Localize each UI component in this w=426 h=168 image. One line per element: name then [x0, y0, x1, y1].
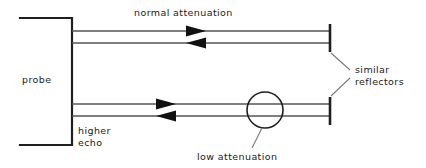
- upper-beam-arrow-left: [186, 38, 206, 49]
- ultrasonic-attenuation-diagram: probe normal attenuation higher echo sim…: [0, 0, 426, 168]
- leader-lines: [252, 53, 350, 148]
- lower-beam-arrow-left: [156, 111, 176, 122]
- lower-beam-path: [72, 99, 330, 122]
- lower-beam-arrow-right: [156, 99, 176, 110]
- upper-beam-path: [72, 26, 330, 49]
- higher-echo-label-line2: echo: [78, 137, 103, 148]
- diagram-canvas: probe normal attenuation higher echo sim…: [0, 0, 426, 168]
- leader-lower-reflector: [331, 78, 350, 96]
- similar-reflectors-label-line2: reflectors: [355, 76, 404, 87]
- similar-reflectors-label-line1: similar: [355, 64, 390, 75]
- leader-low-attenuation: [252, 128, 262, 148]
- upper-beam-arrow-right: [186, 26, 206, 37]
- leader-upper-reflector: [331, 53, 350, 70]
- normal-attenuation-label: normal attenuation: [134, 7, 233, 18]
- low-attenuation-label: low attenuation: [197, 151, 277, 162]
- probe-label: probe: [22, 74, 51, 85]
- low-attenuation-circle: [247, 92, 283, 128]
- higher-echo-label-line1: higher: [78, 125, 111, 136]
